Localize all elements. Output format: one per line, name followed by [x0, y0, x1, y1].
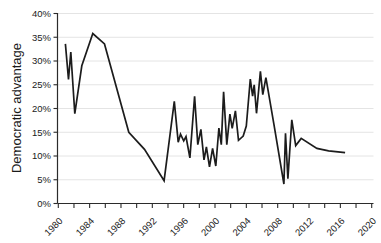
y-tick-label: 15% [32, 127, 52, 138]
y-tick-label: 35% [32, 32, 52, 43]
y-axis-title: Democratic advantage [9, 43, 24, 173]
x-tick-label: 2000 [199, 215, 222, 238]
line-chart: 0%5%10%15%20%25%30%35%40%198019841988199… [0, 0, 381, 243]
x-tick-label: 1988 [105, 215, 128, 238]
x-tick-label: 1984 [73, 215, 96, 238]
gridlines [58, 14, 374, 180]
x-tick-label: 2016 [324, 215, 347, 238]
y-tick-label: 20% [32, 103, 52, 114]
y-tick-label: 25% [32, 79, 52, 90]
x-tick-label: 2012 [293, 215, 316, 238]
x-tick-label: 1996 [167, 215, 190, 238]
x-tick-label: 2020 [355, 215, 378, 238]
y-tick-label: 0% [37, 198, 51, 209]
y-tick-label: 10% [32, 150, 52, 161]
x-tick-label: 1992 [136, 215, 159, 238]
y-tick-label: 30% [32, 55, 52, 66]
x-tick-label: 2004 [230, 215, 253, 238]
x-tick-label: 1980 [42, 215, 65, 238]
chart-figure: 0%5%10%15%20%25%30%35%40%198019841988199… [0, 0, 381, 243]
y-tick-label: 5% [37, 174, 51, 185]
y-tick-label: 40% [32, 8, 52, 19]
x-tick-label: 2008 [261, 215, 284, 238]
